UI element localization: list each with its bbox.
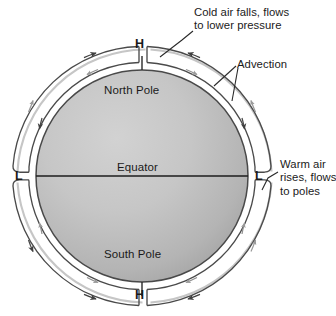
label-equator: Equator — [117, 161, 158, 175]
label-pressure-low-east: L — [255, 169, 263, 184]
annotation-advection: Advection — [237, 58, 287, 71]
label-north-pole: North Pole — [104, 84, 159, 98]
label-pressure-high-south: H — [135, 288, 144, 303]
annotation-cold-air: Cold air falls, flows to lower pressure — [194, 6, 289, 33]
label-pressure-high-north: H — [135, 37, 144, 52]
label-south-pole: South Pole — [104, 248, 161, 262]
label-pressure-low-west: L — [15, 169, 23, 184]
annotation-warm-air: Warm air rises, flows to poles — [280, 158, 336, 198]
